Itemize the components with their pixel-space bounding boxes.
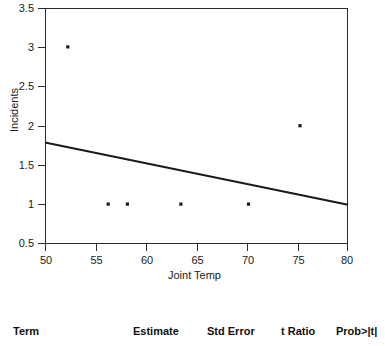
plot-canvas	[45, 8, 348, 244]
x-tick-60	[146, 244, 147, 251]
x-tick-label: 50	[40, 255, 52, 266]
y-tick-label: 2	[28, 121, 45, 132]
x-tick-50	[45, 244, 46, 251]
data-point	[126, 203, 129, 206]
y-tick-label: 1.5	[19, 160, 45, 171]
y-tick-label: 2.5	[19, 81, 45, 92]
data-point	[298, 124, 301, 127]
cropped-title	[0, 0, 385, 4]
y-tick-label: 0.5	[19, 238, 45, 249]
y-tick-label: 3.5	[19, 3, 45, 14]
column-header-estimate: Estimate	[133, 325, 179, 338]
x-tick-75	[298, 244, 299, 251]
x-tick-label: 80	[341, 255, 353, 266]
column-header-std-error: Std Error	[207, 325, 255, 338]
plot-svg	[45, 8, 348, 244]
data-point	[179, 203, 182, 206]
y-axis-title: Incidents	[8, 75, 20, 145]
column-header-t-ratio: t Ratio	[281, 325, 315, 338]
x-tick-label: 65	[191, 255, 203, 266]
x-tick-label: 60	[141, 255, 153, 266]
x-tick-80	[347, 244, 348, 251]
y-tick-label: 3	[28, 42, 45, 53]
x-tick-label: 55	[90, 255, 102, 266]
x-tick-65	[197, 244, 198, 251]
regression-line	[45, 143, 348, 205]
data-point	[107, 203, 110, 206]
stats-table: Term Estimate Std Error t Ratio Prob>|t|	[0, 325, 385, 346]
x-tick-label: 75	[292, 255, 304, 266]
x-tick-55	[96, 244, 97, 251]
column-header-term: Term	[13, 325, 39, 338]
x-tick-label: 70	[242, 255, 254, 266]
x-axis-title: Joint Temp	[0, 269, 385, 281]
column-header-prob: Prob>|t|	[336, 325, 377, 338]
y-tick-label: 1	[28, 199, 45, 210]
data-point	[66, 45, 69, 48]
scatterplot-figure: 3.5 3 2.5 2 1.5 1 0.5 50 55 60 65 70 75 …	[0, 0, 385, 290]
x-tick-70	[247, 244, 248, 251]
data-point	[247, 203, 250, 206]
